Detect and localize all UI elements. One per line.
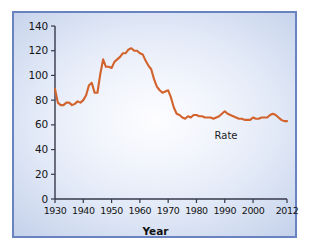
y-tick-label: 60 xyxy=(14,118,48,130)
y-tick-label: 20 xyxy=(14,168,48,180)
y-tick-label: 0 xyxy=(14,193,48,205)
y-tick-label: 80 xyxy=(14,94,48,106)
y-tick-label: 100 xyxy=(14,69,48,81)
y-tick-label: 140 xyxy=(14,20,48,32)
rate-series-annotation: Rate xyxy=(215,130,238,141)
y-tick-label: 120 xyxy=(14,44,48,56)
x-tick-label: 2012 xyxy=(270,205,304,216)
chart-panel: 140120100806040200 193019401950196019701… xyxy=(12,11,297,238)
x-axis-title: Year xyxy=(0,225,311,237)
chart-screenshot: 140120100806040200 193019401950196019701… xyxy=(0,0,311,249)
rate-line-series xyxy=(55,48,287,121)
line-chart-plot xyxy=(14,13,295,236)
y-tick-label: 40 xyxy=(14,143,48,155)
x-tick-label: 2000 xyxy=(236,205,270,216)
